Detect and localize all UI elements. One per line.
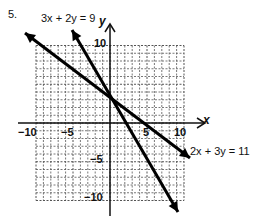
coordinate-plane: −10 −5 5 10 10 −5 −10: [0, 0, 256, 221]
line-2x-3y-11: [25, 33, 190, 158]
tick-y-10: 10: [94, 37, 106, 49]
tick-x-neg10: −10: [18, 126, 37, 138]
tick-y-neg5: −5: [90, 153, 103, 165]
tick-x-10: 10: [174, 126, 186, 138]
tick-y-neg10: −10: [84, 191, 103, 203]
tick-x-neg5: −5: [61, 126, 74, 138]
